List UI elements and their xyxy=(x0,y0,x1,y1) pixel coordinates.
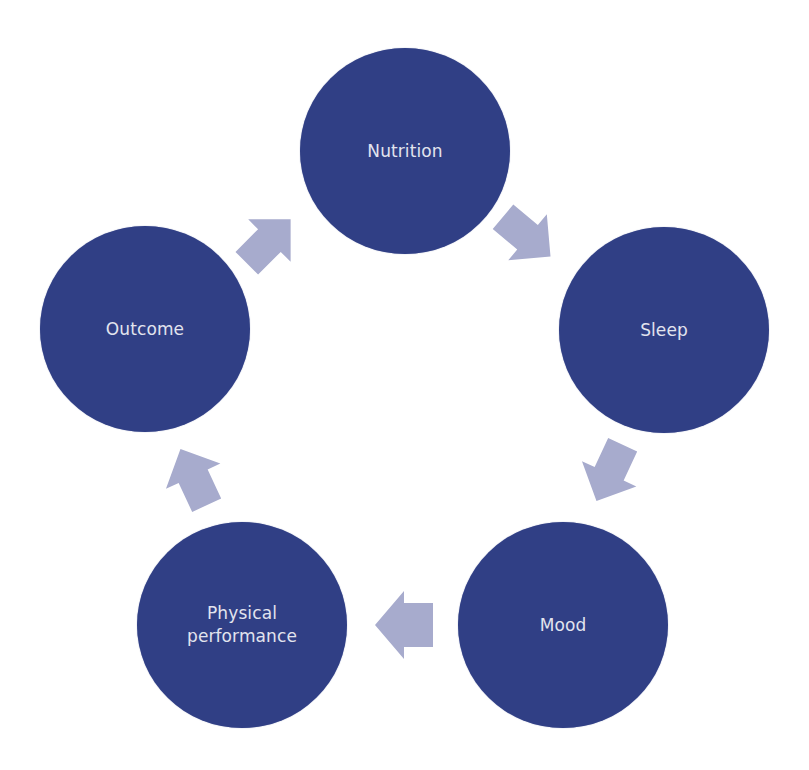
node-physical-performance: Physical performance xyxy=(137,522,347,728)
arrow-sleep-to-mood-icon xyxy=(569,432,650,514)
arrow-mood-to-physical-icon xyxy=(375,591,433,659)
node-outcome: Outcome xyxy=(40,226,250,432)
node-mood: Mood xyxy=(458,522,668,728)
node-label-physical-performance: Physical performance xyxy=(177,602,307,648)
node-label-nutrition: Nutrition xyxy=(367,140,442,163)
arrow-physical-to-outcome-icon xyxy=(153,436,234,518)
arrow-nutrition-to-sleep-icon xyxy=(484,194,570,280)
node-sleep: Sleep xyxy=(559,227,769,433)
node-label-mood: Mood xyxy=(540,614,587,637)
cycle-diagram: Nutrition Sleep Mood Physical performanc… xyxy=(0,0,809,770)
node-label-outcome: Outcome xyxy=(106,318,184,341)
node-nutrition: Nutrition xyxy=(300,48,510,254)
node-label-sleep: Sleep xyxy=(640,319,688,342)
arrow-outcome-to-nutrition-icon xyxy=(226,198,312,284)
